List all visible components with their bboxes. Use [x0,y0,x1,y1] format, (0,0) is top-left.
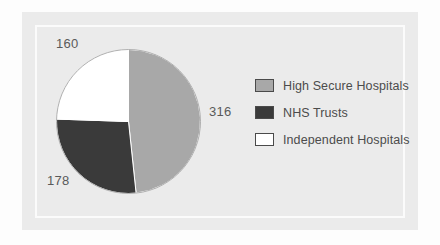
pie-slice-independent-hospitals[interactable] [57,50,129,122]
chart-legend: High Secure Hospitals NHS Trusts Indepen… [255,72,415,153]
pie-svg [56,49,201,194]
legend-item-label: Independent Hospitals [283,133,410,147]
legend-item-high-secure-hospitals[interactable]: High Secure Hospitals [255,72,415,99]
data-label-high-secure-hospitals: 316 [209,104,232,119]
pie-slice-high-secure-hospitals[interactable] [129,50,201,194]
plot-area: 160 316 178 High Secure Hospitals NHS Tr… [0,0,440,245]
pie-chart-figure: 160 316 178 High Secure Hospitals NHS Tr… [0,0,440,245]
legend-item-nhs-trusts[interactable]: NHS Trusts [255,99,415,126]
legend-item-independent-hospitals[interactable]: Independent Hospitals [255,126,415,153]
legend-item-label: High Secure Hospitals [283,79,409,93]
legend-swatch-icon [255,79,274,92]
data-label-nhs-trusts: 178 [47,173,70,188]
pie-graphic [56,49,201,194]
legend-swatch-icon [255,106,274,119]
data-label-independent-hospitals: 160 [56,36,79,51]
legend-item-label: NHS Trusts [283,106,348,120]
legend-swatch-icon [255,133,274,146]
